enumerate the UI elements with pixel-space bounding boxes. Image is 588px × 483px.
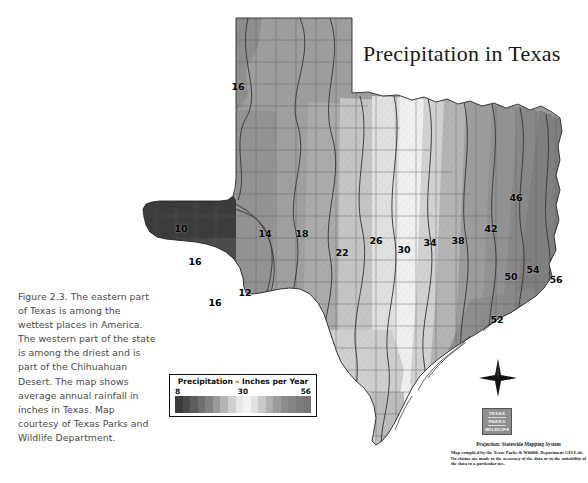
isoline-label-16-0: 16 xyxy=(231,81,244,92)
isoline-label-42-12: 42 xyxy=(484,223,497,234)
isoline-label-56-16: 56 xyxy=(549,274,562,285)
isoline-label-22-7: 22 xyxy=(335,247,348,258)
map-disclaimer: Map compiled by the Texas Parks & Wildli… xyxy=(451,450,588,467)
tpwd-logo: TEXAS PARKS WILDLIFE xyxy=(482,408,512,435)
isoline-label-16-2: 16 xyxy=(188,256,201,267)
legend-swatch-9 xyxy=(243,396,251,413)
legend-swatch-5 xyxy=(213,396,221,413)
legend-swatch-11 xyxy=(258,396,266,413)
legend-swatch-8 xyxy=(236,396,244,413)
isoline-label-14-5: 14 xyxy=(258,228,271,239)
isoline-label-52-17: 52 xyxy=(490,314,503,325)
legend-swatch-14 xyxy=(281,396,289,413)
isoline-label-34-10: 34 xyxy=(423,237,436,248)
legend-swatch-16 xyxy=(296,396,304,413)
legend-swatch-17 xyxy=(304,396,312,413)
legend-swatch-2 xyxy=(190,396,198,413)
tpwd-logo-line2: PARKS xyxy=(489,419,506,425)
map-title: Precipitation in Texas xyxy=(363,41,561,67)
isoline-label-54-15: 54 xyxy=(526,264,539,275)
legend-gradient-bar xyxy=(175,396,311,413)
legend-swatch-12 xyxy=(266,396,274,413)
legend-swatch-13 xyxy=(273,396,281,413)
isoline-label-46-13: 46 xyxy=(509,192,522,203)
legend-swatch-10 xyxy=(251,396,259,413)
legend-swatch-7 xyxy=(228,396,236,413)
legend-swatch-1 xyxy=(183,396,191,413)
legend-max-value: 56 xyxy=(301,387,311,396)
isoline-label-18-6: 18 xyxy=(295,228,308,239)
projection-note: Projection: Statewide Mapping System xyxy=(451,441,586,447)
isoline-label-26-8: 26 xyxy=(369,235,382,246)
isoline-label-10-1: 10 xyxy=(174,223,187,234)
figure-caption: Figure 2.3. The eastern part of Texas is… xyxy=(18,290,158,445)
legend-title: Precipitation – Inches per Year xyxy=(170,377,316,386)
isoline-label-30-9: 30 xyxy=(397,244,410,255)
isoline-label-12-4: 12 xyxy=(238,287,251,298)
tpwd-logo-line1: TEXAS xyxy=(489,411,506,417)
isoline-label-50-14: 50 xyxy=(504,271,517,282)
legend-swatch-6 xyxy=(220,396,228,413)
compass-rose-icon xyxy=(478,358,518,398)
legend-swatch-4 xyxy=(205,396,213,413)
tpwd-logo-line3: WILDLIFE xyxy=(485,427,510,433)
legend: Precipitation – Inches per Year 8 30 56 xyxy=(169,374,317,417)
legend-swatch-0 xyxy=(175,396,183,413)
legend-mid-value: 30 xyxy=(170,387,316,396)
legend-swatch-15 xyxy=(288,396,296,413)
legend-swatch-3 xyxy=(198,396,206,413)
isoline-label-38-11: 38 xyxy=(451,235,464,246)
figure-precipitation-in-texas: Precipitation in Texas 16101616121418222… xyxy=(0,0,588,483)
isoline-label-16-3: 16 xyxy=(208,297,221,308)
